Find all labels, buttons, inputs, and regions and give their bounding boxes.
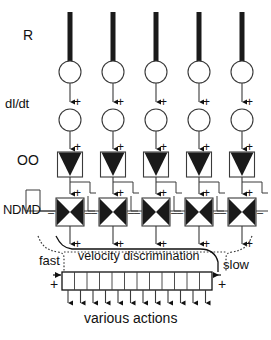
action-output-arrows (68, 290, 206, 303)
sign-plus-pool-2: + (117, 238, 124, 250)
velocity-discrimination-diagram: R dI/dt OO NDMD fast slow velocity discr… (0, 0, 271, 340)
sign-plus-oo-2: + (117, 141, 124, 153)
sign-plus-didt-5: + (246, 96, 253, 108)
sign-plus-ndmd-1: + (74, 187, 81, 199)
sign-plus-ndmd-3: + (160, 187, 167, 199)
sign-minus-ndmd-1-left: – (48, 207, 54, 218)
sign-plus-oo-1: + (74, 141, 81, 153)
label-slow: slow (223, 258, 249, 271)
sign-plus-oo-4: + (203, 141, 210, 153)
label-receptor: R (23, 28, 33, 42)
sign-plus-vd-left: + (50, 277, 58, 291)
label-ndmd: NDMD (3, 203, 40, 216)
derivative-to-oo-links (70, 131, 242, 149)
diagram-vector-layer (0, 0, 271, 340)
sign-plus-oo-5: + (246, 141, 253, 153)
sign-plus-didt-2: + (117, 96, 124, 108)
receptor-to-derivative-links (70, 83, 242, 102)
label-oo: OO (17, 153, 39, 167)
sign-minus-ndmd-4-left: – (177, 207, 183, 218)
label-various-actions: various actions (84, 311, 177, 325)
oo-units (58, 152, 255, 177)
sign-minus-ndmd-3-left: – (134, 207, 140, 218)
sign-minus-ndmd-2-left: – (91, 207, 97, 218)
sign-plus-oo-3: + (160, 141, 167, 153)
derivative-circles (59, 109, 253, 131)
sign-plus-pool-4: + (203, 238, 210, 250)
velocity-discrimination-box (62, 272, 212, 290)
sign-plus-ndmd-5: + (246, 187, 253, 199)
sign-plus-pool-5: + (246, 238, 253, 250)
sign-minus-ndmd-5-right: – (257, 207, 263, 218)
ndmd-output-links (70, 226, 242, 244)
sign-plus-ndmd-2: + (117, 187, 124, 199)
sign-plus-pool-1: + (74, 238, 81, 250)
sign-plus-didt-1: + (74, 96, 81, 108)
oo-to-ndmd-links (70, 177, 242, 194)
receptor-circles (59, 61, 253, 83)
sign-plus-didt-4: + (203, 96, 210, 108)
receptor-bars (68, 12, 245, 62)
sign-plus-pool-3: + (160, 238, 167, 250)
sign-plus-vd-right: + (218, 277, 226, 291)
label-fast: fast (39, 254, 60, 267)
label-derivative: dI/dt (5, 97, 29, 110)
sign-minus-ndmd-5-left: – (220, 207, 226, 218)
label-velocity-discrimination: velocity discrimination (78, 250, 200, 263)
sign-plus-ndmd-4: + (203, 187, 210, 199)
sign-plus-didt-3: + (160, 96, 167, 108)
